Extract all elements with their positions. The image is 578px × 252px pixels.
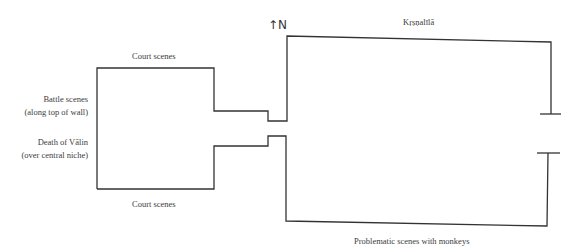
label-krisnalila: Kṛṣṇalīlā (403, 16, 434, 29)
label-death-of-valin-line1: Death of Vālin (21, 136, 88, 149)
floor-plan-outline (0, 0, 578, 252)
label-battle-scenes: Battle scenes (along top of wall) (25, 93, 89, 119)
north-arrow-icon: ↑N (268, 18, 287, 32)
label-death-of-valin-line2: (over central niche) (21, 149, 88, 162)
label-court-scenes-top: Court scenes (132, 50, 176, 63)
label-battle-scenes-line1: Battle scenes (25, 93, 89, 106)
wall-south (97, 136, 548, 226)
label-problematic-scenes: Problematic scenes with monkeys (354, 235, 469, 248)
label-court-scenes-bottom: Court scenes (132, 198, 176, 211)
label-battle-scenes-line2: (along top of wall) (25, 106, 89, 119)
label-death-of-valin: Death of Vālin (over central niche) (21, 136, 88, 162)
